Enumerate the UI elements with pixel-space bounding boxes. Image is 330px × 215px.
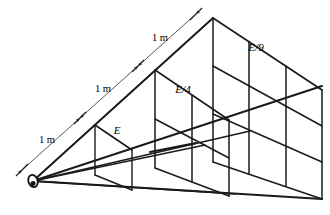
panel-2m-label: E/4	[174, 83, 191, 95]
panel-1m-label: E	[113, 124, 121, 136]
dimension-label-2: 1 m	[95, 83, 111, 94]
inverse-square-law-figure: 1 m 1 m 1 m E E/4 E/9	[0, 0, 330, 215]
dimension-label-3: 1 m	[152, 32, 168, 43]
dimension-label-1: 1 m	[39, 134, 55, 145]
panel-3m-label: E/9	[247, 41, 264, 53]
diagram-canvas: 1 m 1 m 1 m E E/4 E/9	[0, 0, 330, 215]
